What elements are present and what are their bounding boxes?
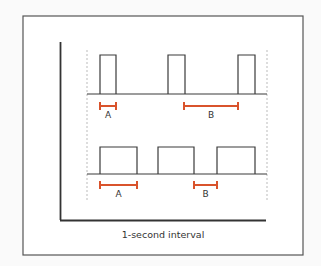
interval-caption: 1-second interval (60, 229, 266, 240)
outer-frame (23, 16, 303, 255)
marker-label: B (202, 189, 208, 199)
marker-label: A (105, 110, 112, 120)
marker-label: A (115, 189, 122, 199)
pulse-diagram: AB AB (0, 0, 321, 266)
marker-label: B (208, 110, 214, 120)
